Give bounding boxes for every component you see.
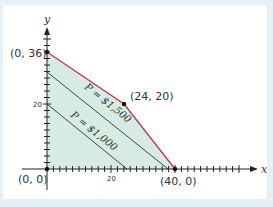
label-0-36: (0, 36) (10, 47, 47, 60)
x-axis-label: x (261, 163, 268, 176)
label-24-20: (24, 20) (130, 90, 174, 103)
y-axis-arrow-icon (44, 27, 50, 35)
x-axis-arrow-icon (250, 166, 258, 172)
point-origin (45, 167, 49, 171)
x-tick-label-20: 20 (107, 175, 116, 183)
y-axis-label: y (43, 13, 51, 26)
label-40-0: (40, 0) (160, 175, 197, 188)
point-40-0 (173, 167, 177, 171)
point-24-20 (122, 102, 126, 106)
linear-programming-graph: y x (0, 36) (24, 20) (0, 0) (40, 0) 20 2… (0, 0, 273, 207)
y-tick-label-20: 20 (33, 101, 42, 109)
label-origin: (0, 0) (18, 173, 48, 186)
